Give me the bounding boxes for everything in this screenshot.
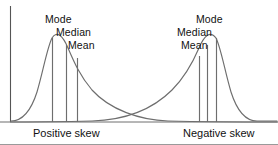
- positive-skew-mean-label: Mean: [68, 40, 95, 51]
- negative-skew-mode-label: Mode: [196, 14, 223, 25]
- negative-skew-median-label: Median: [177, 27, 212, 38]
- distribution-plot: [0, 0, 278, 145]
- negative-skew-curve: [0, 34, 277, 122]
- skewness-figure: Mode Median Mean Mode Median Mean Positi…: [0, 0, 278, 145]
- positive-skew-caption: Positive skew: [33, 127, 100, 139]
- positive-skew-median-label: Median: [56, 27, 91, 38]
- negative-skew-mean-label: Mean: [181, 40, 208, 51]
- positive-skew-curve: [11, 34, 277, 122]
- positive-skew-mode-label: Mode: [45, 14, 72, 25]
- negative-skew-caption: Negative skew: [183, 127, 255, 139]
